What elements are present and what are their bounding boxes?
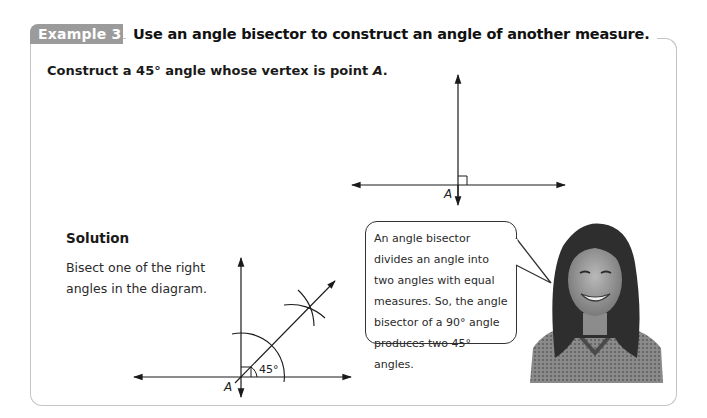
student-photo <box>525 218 665 383</box>
